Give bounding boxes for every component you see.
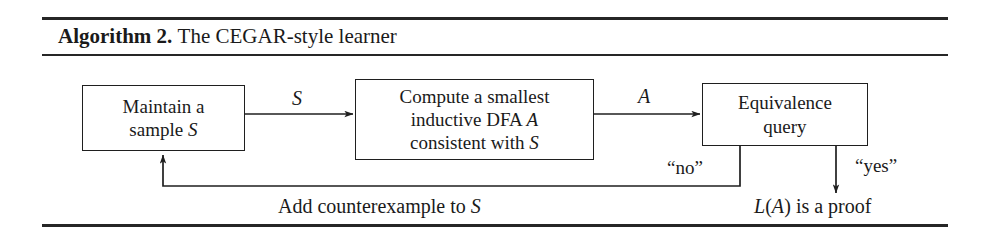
script-s-symbol: S <box>529 132 539 153</box>
script-a-symbol: A <box>772 195 784 217</box>
algorithm-figure: Algorithm 2. The CEGAR-style learner Mai… <box>0 0 988 241</box>
node-equivalence-line-2: query <box>763 115 806 138</box>
caption-add-counterexample: Add counterexample to S <box>278 196 481 216</box>
node-compute-line-3-text: consistent with <box>410 132 529 153</box>
rule-under-caption <box>42 54 948 56</box>
node-compute-line-2: inductive DFA A <box>411 108 539 131</box>
node-maintain-line-2: sample S <box>129 118 197 141</box>
node-maintain-line-1: Maintain a <box>123 95 205 118</box>
edge-label-no: “no” <box>667 158 703 177</box>
node-equivalence-line-1: Equivalence <box>738 91 832 114</box>
node-compute-line-2-text: inductive DFA <box>411 109 527 130</box>
edge-label-yes: “yes” <box>855 156 897 175</box>
node-equivalence-query: Equivalence query <box>702 83 868 146</box>
caption-language-is-proof: L(A) is a proof <box>754 196 871 216</box>
algorithm-caption: Algorithm 2. The CEGAR-style learner <box>58 22 397 50</box>
rule-top <box>42 17 948 20</box>
edge-label-sample: S <box>292 88 302 108</box>
rule-bottom <box>42 224 948 227</box>
algorithm-title: The CEGAR-style learner <box>178 24 397 48</box>
script-s-symbol: S <box>471 195 481 217</box>
edge-label-automaton: A <box>638 86 650 106</box>
script-s-symbol: S <box>188 119 198 140</box>
proof-rest-text: ) is a proof <box>784 195 871 217</box>
caption-add-counterexample-text: Add counterexample to <box>278 195 471 217</box>
language-operator-symbol: L <box>754 195 765 217</box>
node-maintain-line-2-text: sample <box>129 119 188 140</box>
script-a-symbol: A <box>526 109 538 130</box>
node-compute-line-3: consistent with S <box>410 131 539 154</box>
algorithm-number-label: Algorithm 2. <box>58 24 172 48</box>
node-compute-line-1: Compute a smallest <box>400 85 550 108</box>
node-compute-dfa: Compute a smallest inductive DFA A consi… <box>355 79 594 160</box>
node-maintain-sample: Maintain a sample S <box>82 85 245 151</box>
proof-open-paren: ( <box>765 195 772 217</box>
